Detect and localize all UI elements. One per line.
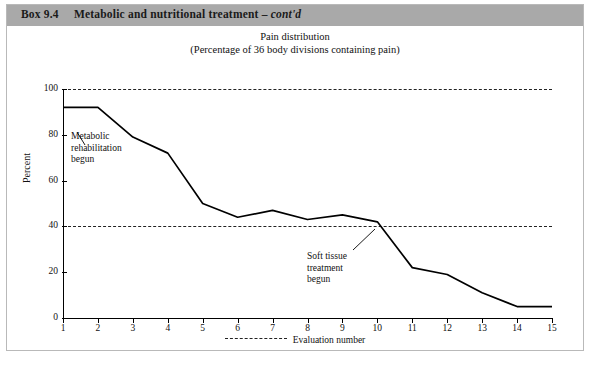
- y-tick-label-20: 20: [49, 266, 59, 276]
- metabolic-rehabilitation-annotation: Metabolic rehabilitation begun: [71, 131, 122, 166]
- y-tick-label-60: 60: [49, 175, 59, 185]
- box-number: Box 9.4: [21, 8, 59, 20]
- screenshot-page: Box 9.4 Metabolic and nutritional treatm…: [0, 0, 593, 372]
- x-tick-label-2: 2: [96, 323, 101, 333]
- box-title-plain: Metabolic and nutritional treatment –: [74, 8, 271, 20]
- x-tick-label-12: 12: [442, 323, 452, 333]
- x-tick-label-7: 7: [270, 323, 275, 333]
- x-tick-label-8: 8: [305, 323, 310, 333]
- x-tick-label-3: 3: [130, 323, 135, 333]
- x-tick-label-4: 4: [165, 323, 170, 333]
- y-tick-label-80: 80: [49, 129, 59, 139]
- x-tick-label-13: 13: [477, 323, 487, 333]
- legend-dash-sample: [225, 338, 287, 339]
- x-tick-label-6: 6: [235, 323, 240, 333]
- box-title-italic: cont'd: [271, 8, 302, 20]
- y-tick-label-100: 100: [44, 83, 58, 93]
- content-box: Box 9.4 Metabolic and nutritional treatm…: [6, 4, 584, 351]
- chart-title: Pain distribution: [7, 31, 583, 44]
- box-header-title: Box 9.4 Metabolic and nutritional treatm…: [21, 8, 301, 20]
- chart-subtitle: (Percentage of 36 body divisions contain…: [7, 44, 583, 57]
- x-tick-label-11: 11: [408, 323, 417, 333]
- x-tick-label-1: 1: [61, 323, 66, 333]
- x-tick-label-14: 14: [512, 323, 522, 333]
- x-tick-label-9: 9: [340, 323, 345, 333]
- x-tick-label-10: 10: [373, 323, 383, 333]
- y-axis-label: Percent: [21, 153, 32, 183]
- y-tick-label-0: 0: [53, 312, 58, 322]
- chart-title-block: Pain distribution (Percentage of 36 body…: [7, 31, 583, 56]
- chart-legend: Evaluation number: [7, 335, 583, 345]
- soft-tissue-annotation-leader: [353, 229, 375, 250]
- y-tick-label-40: 40: [49, 220, 59, 230]
- x-tick-label-15: 15: [547, 323, 557, 333]
- box-header-bar: Box 9.4 Metabolic and nutritional treatm…: [7, 5, 583, 26]
- legend-label-evaluation-number: Evaluation number: [293, 335, 366, 345]
- soft-tissue-treatment-annotation: Soft tissue treatment begun: [307, 251, 347, 286]
- x-tick-label-5: 5: [200, 323, 205, 333]
